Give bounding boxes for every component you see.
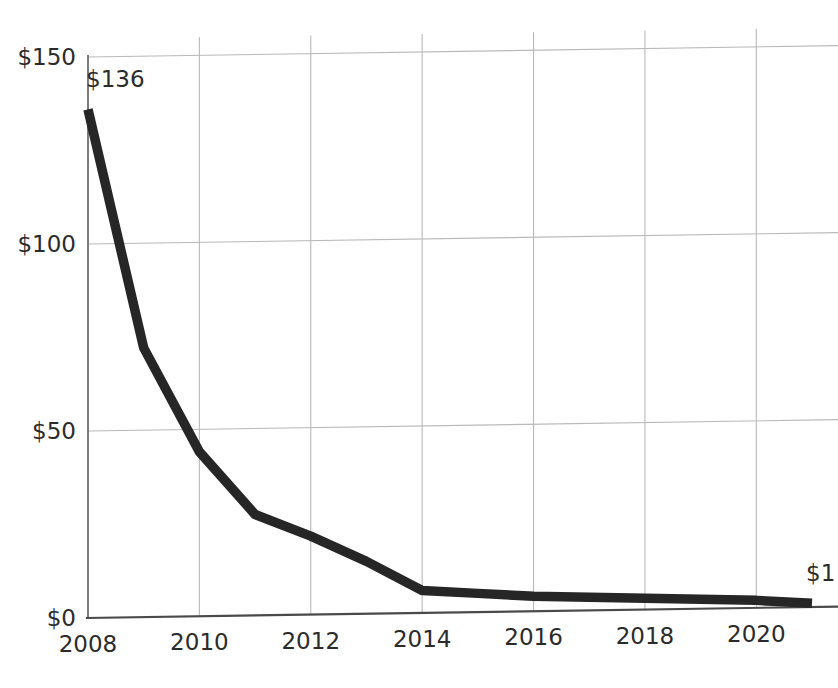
y-tick-label-150: $150 — [17, 44, 76, 70]
last-point-label: $1 — [806, 560, 835, 586]
x-tick-label-2014: 2014 — [393, 626, 452, 652]
x-tick-label-2018: 2018 — [616, 623, 675, 649]
y-tick-label-0: $0 — [47, 605, 76, 631]
chart-container: $0$50$100$150 20082010201220142016201820… — [0, 0, 838, 688]
first-point-label: $136 — [86, 66, 145, 92]
x-tick-label-2016: 2016 — [504, 624, 563, 650]
x-tick-label-2008: 2008 — [59, 631, 118, 657]
x-tick-label-2010: 2010 — [170, 629, 229, 655]
x-tick-label-2012: 2012 — [281, 628, 340, 654]
y-tick-label-50: $50 — [32, 418, 76, 444]
line-chart: $0$50$100$150 20082010201220142016201820… — [0, 0, 838, 688]
x-tick-label-2020: 2020 — [727, 621, 786, 647]
y-tick-label-100: $100 — [17, 231, 76, 257]
